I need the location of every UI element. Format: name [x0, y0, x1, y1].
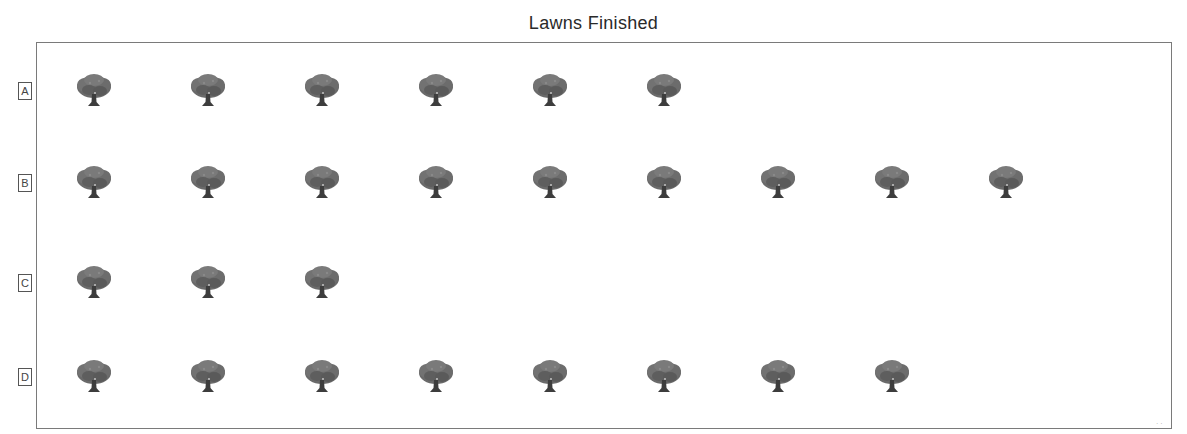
tree-icon	[186, 261, 230, 305]
corner-mark: · ·	[1156, 420, 1163, 427]
tree-icon	[642, 161, 686, 205]
tree-icon	[414, 355, 458, 399]
tree-icon	[642, 355, 686, 399]
row-label-b: B	[18, 174, 32, 192]
tree-icon	[186, 355, 230, 399]
tree-icon	[756, 161, 800, 205]
tree-icon	[186, 161, 230, 205]
tree-icon	[984, 161, 1028, 205]
tree-icon	[300, 161, 344, 205]
tree-icon	[528, 161, 572, 205]
tree-icon	[528, 355, 572, 399]
tree-icon	[414, 161, 458, 205]
row-label-d: D	[18, 368, 32, 386]
tree-icon	[756, 355, 800, 399]
tree-icon	[414, 69, 458, 113]
row-label-c: C	[18, 274, 32, 292]
tree-icon	[300, 261, 344, 305]
tree-icon	[642, 69, 686, 113]
tree-icon	[300, 355, 344, 399]
tree-icon	[72, 355, 116, 399]
chart-title: Lawns Finished	[0, 13, 1187, 34]
tree-icon	[72, 69, 116, 113]
tree-icon	[72, 261, 116, 305]
tree-icon	[300, 69, 344, 113]
tree-icon	[528, 69, 572, 113]
tree-icon	[870, 161, 914, 205]
tree-icon	[870, 355, 914, 399]
tree-icon	[72, 161, 116, 205]
tree-icon	[186, 69, 230, 113]
row-label-a: A	[18, 82, 32, 100]
